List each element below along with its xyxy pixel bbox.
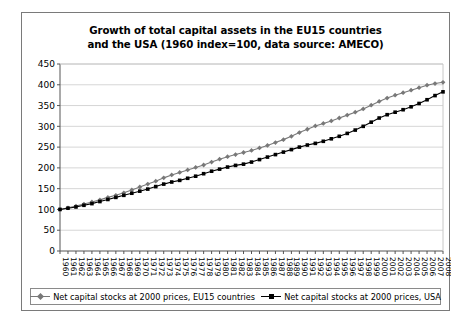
x-axis-tick-label: 1967 <box>117 257 126 276</box>
data-point <box>322 139 326 143</box>
x-axis-tick-label: 1988 <box>285 257 294 276</box>
data-point <box>201 163 206 168</box>
data-point <box>82 203 86 207</box>
data-point <box>409 88 414 93</box>
chart-legend: Net capital stocks at 2000 prices, EU15 … <box>30 288 441 305</box>
data-point <box>441 80 446 85</box>
x-axis-tick-label: 1998 <box>364 257 373 276</box>
data-point <box>257 146 262 151</box>
x-axis-tick-label: 2005 <box>420 257 429 276</box>
y-axis-tick-label: 0 <box>49 246 55 256</box>
data-point <box>249 148 254 153</box>
data-point <box>234 164 238 168</box>
data-point <box>385 96 390 101</box>
x-axis-tick-label: 1965 <box>101 257 110 276</box>
y-axis-tick-label: 150 <box>38 184 55 194</box>
data-point <box>305 127 310 132</box>
x-axis-tick-label: 1971 <box>149 257 158 276</box>
data-point <box>169 173 174 178</box>
x-axis-tick-label: 1980 <box>221 257 230 276</box>
x-axis-tick-label: 1995 <box>340 257 349 276</box>
data-point <box>361 106 366 111</box>
data-point <box>337 116 342 121</box>
x-axis-tick-label: 1999 <box>372 257 381 276</box>
data-point <box>225 154 230 159</box>
x-axis-tick-label: 2000 <box>380 257 389 276</box>
data-point <box>242 162 246 166</box>
data-point <box>153 179 158 184</box>
data-point <box>210 169 214 173</box>
plot-area: 0501001502002503003504004501960196119621… <box>22 13 451 312</box>
x-axis-tick-label: 1990 <box>300 257 309 276</box>
data-point <box>162 182 166 186</box>
y-axis-tick-label: 300 <box>38 122 55 132</box>
legend-label-usa: Net capital stocks at 2000 prices, USA <box>284 292 441 302</box>
data-point <box>106 198 110 202</box>
data-point <box>90 202 94 206</box>
y-axis-tick-label: 200 <box>38 163 55 173</box>
x-axis-tick-label: 1983 <box>245 257 254 276</box>
data-point <box>314 142 318 146</box>
data-point <box>282 150 286 154</box>
x-axis-tick-label: 1985 <box>261 257 270 276</box>
data-point <box>170 180 174 184</box>
x-axis-tick-label: 1960 <box>61 257 70 276</box>
x-axis-tick-label: 1962 <box>77 257 86 276</box>
data-point <box>122 194 126 198</box>
data-point <box>114 196 118 200</box>
data-point <box>441 90 445 94</box>
data-point <box>306 143 310 147</box>
data-point <box>417 85 422 90</box>
data-point <box>377 99 382 104</box>
data-point <box>401 90 406 95</box>
x-axis-tick-label: 1987 <box>277 257 286 276</box>
data-point <box>193 165 198 170</box>
data-point <box>258 158 262 162</box>
x-axis-tick-label: 1976 <box>189 257 198 276</box>
data-point <box>146 187 150 191</box>
x-axis-tick-label: 1977 <box>197 257 206 276</box>
data-point <box>218 167 222 171</box>
data-point <box>425 98 429 102</box>
y-axis-tick-label: 400 <box>38 80 55 90</box>
x-axis-tick-label: 1973 <box>165 257 174 276</box>
data-point <box>154 185 158 189</box>
data-point <box>417 102 421 106</box>
data-point <box>178 179 182 183</box>
data-point <box>177 170 182 175</box>
x-axis-tick-label: 2004 <box>412 257 421 276</box>
x-axis-tick-label: 1975 <box>181 257 190 276</box>
legend-item-usa: Net capital stocks at 2000 prices, USA <box>261 292 441 302</box>
data-point <box>337 135 341 139</box>
x-axis-tick-label: 1970 <box>141 257 150 276</box>
x-axis-tick-label: 2001 <box>388 257 397 276</box>
y-axis-tick-label: 100 <box>38 205 55 215</box>
x-axis-tick-label: 1964 <box>93 257 102 276</box>
data-point <box>266 155 270 159</box>
data-point <box>217 157 222 162</box>
plot-svg: 0501001502002503003504004501960196119621… <box>22 13 451 312</box>
data-point <box>66 206 70 210</box>
x-axis-tick-label: 2006 <box>428 257 437 276</box>
data-point <box>298 145 302 149</box>
data-point <box>433 94 437 98</box>
data-point <box>250 160 254 164</box>
data-point <box>194 174 198 178</box>
data-point <box>329 137 333 141</box>
x-axis-tick-label: 2007 <box>436 257 445 276</box>
data-point <box>209 160 214 165</box>
x-axis-tick-label: 1993 <box>324 257 333 276</box>
y-axis-tick-label: 350 <box>38 101 55 111</box>
data-point <box>393 93 398 98</box>
x-axis-tick-label: 1969 <box>133 257 142 276</box>
x-axis-tick-label: 1994 <box>332 257 341 276</box>
data-point <box>425 83 430 88</box>
x-axis-tick-label: 2002 <box>396 257 405 276</box>
x-axis-tick-label: 1981 <box>229 257 238 276</box>
legend-item-eu15: Net capital stocks at 2000 prices, EU15 … <box>30 292 255 302</box>
data-point <box>98 200 102 204</box>
x-axis-tick-label: 1974 <box>173 257 182 276</box>
data-point <box>409 105 413 109</box>
data-point <box>273 140 278 145</box>
x-axis-tick-label: 1978 <box>205 257 214 276</box>
